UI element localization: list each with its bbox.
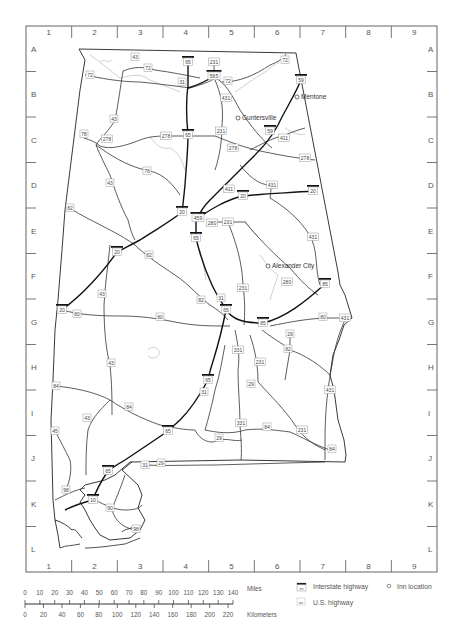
us-highway-shield: 431 (267, 181, 278, 189)
svg-text:29: 29 (248, 381, 254, 387)
grid-row-label: B (31, 90, 36, 99)
us-highway-shield: 80 (319, 313, 327, 321)
svg-text:20: 20 (59, 307, 65, 313)
svg-text:82: 82 (285, 346, 291, 352)
svg-text:84: 84 (329, 446, 335, 452)
svg-text:40: 40 (81, 589, 89, 596)
svg-text:nn: nn (300, 587, 304, 591)
grid-row-label: B (428, 90, 433, 99)
svg-text:20: 20 (310, 188, 316, 194)
svg-text:278: 278 (229, 145, 238, 151)
interstate-shield: 20 (176, 206, 188, 216)
us-highway-shield: 43 (110, 115, 118, 123)
grid-column-label: 2 (92, 562, 97, 571)
svg-text:0: 0 (23, 611, 27, 618)
grid-column-label: 4 (184, 562, 189, 571)
us-highway-shield: 280 (282, 278, 293, 286)
svg-text:43: 43 (111, 116, 117, 122)
svg-text:565: 565 (210, 73, 219, 79)
svg-text:43: 43 (99, 291, 105, 297)
us-highway-shield: 72 (144, 64, 152, 72)
svg-text:180: 180 (186, 611, 197, 618)
svg-text:331: 331 (237, 420, 246, 426)
us-shield-icon: nn (297, 598, 305, 605)
grid-column-label: 5 (229, 562, 234, 571)
grid-row-label: D (428, 181, 434, 190)
scale-bar: 0102030405060708090100110120130140 02040… (23, 585, 277, 618)
svg-text:29: 29 (158, 460, 164, 466)
svg-text:280: 280 (208, 220, 217, 226)
us-highway-shield: 78 (80, 130, 88, 138)
inn-location: Alexander City (266, 262, 315, 270)
svg-text:65: 65 (185, 59, 191, 65)
us-highway-shield: 29 (215, 434, 223, 442)
grid-row-label: E (428, 227, 433, 236)
svg-text:231: 231 (210, 59, 219, 65)
svg-text:110: 110 (183, 589, 194, 596)
svg-text:78: 78 (81, 131, 87, 137)
us-highway-shield: 31 (178, 78, 186, 86)
svg-text:59: 59 (267, 128, 273, 134)
us-highway-shield: 278 (161, 132, 172, 140)
svg-text:31: 31 (201, 389, 207, 395)
svg-text:231: 231 (298, 427, 307, 433)
svg-text:431: 431 (268, 182, 277, 188)
us-highway-shield: 72 (224, 77, 232, 85)
grid-row-label: C (31, 136, 37, 145)
us-highway-shield: 231 (297, 426, 308, 434)
us-highway-shield: 82 (284, 345, 292, 353)
grid-row-label: K (428, 500, 434, 509)
us-highway-shield: 411 (224, 185, 235, 193)
svg-text:43: 43 (132, 54, 138, 60)
us-highway-shield: 431 (308, 233, 319, 241)
grid-row-label: H (428, 363, 434, 372)
grid-column-label: 8 (366, 562, 371, 571)
svg-text:231: 231 (256, 359, 265, 365)
inn-location: Mentone (295, 93, 327, 100)
grid-column-label: 8 (366, 28, 371, 37)
svg-text:82: 82 (146, 252, 152, 258)
svg-text:29: 29 (287, 331, 293, 337)
us-highway-shield: 231 (223, 218, 234, 226)
svg-text:65: 65 (185, 132, 191, 138)
us-highway-shield: 84 (125, 403, 133, 411)
svg-text:100: 100 (112, 611, 123, 618)
us-highway-shield: 331 (236, 419, 247, 427)
us-highway-shield: 90 (106, 504, 114, 512)
us-highway-shield: 31 (217, 294, 225, 302)
us-highway-shield: 231 (216, 127, 227, 135)
svg-text:45: 45 (52, 428, 58, 434)
grid-column-label: 5 (229, 28, 234, 37)
us-highway-shield: 84 (52, 382, 60, 390)
us-highway-shield: 45 (51, 427, 59, 435)
us-highway-shield: 43 (107, 359, 115, 367)
grid-row-label: I (31, 409, 33, 418)
svg-text:72: 72 (282, 57, 288, 63)
us-highway-shield: 29 (286, 330, 294, 338)
svg-text:72: 72 (225, 78, 231, 84)
interstate-shield-icon: nn (297, 583, 306, 591)
legend: nn Interstate highway nn U.S. highway In… (297, 583, 432, 607)
svg-text:80: 80 (95, 611, 103, 618)
grid-column-label: 1 (47, 28, 52, 37)
svg-text:220: 220 (223, 611, 234, 618)
svg-text:65: 65 (193, 235, 199, 241)
town-label: Mentone (301, 93, 327, 100)
svg-text:20: 20 (114, 249, 120, 255)
svg-text:65: 65 (105, 468, 111, 474)
svg-text:59: 59 (298, 77, 304, 83)
svg-text:84: 84 (264, 424, 270, 430)
svg-text:231: 231 (217, 128, 226, 134)
us-highway-shield: 80 (156, 313, 164, 321)
grid-row-label: L (31, 545, 36, 554)
us-highway-shield: 231 (209, 58, 220, 66)
interstate-shield: 459 (191, 212, 206, 222)
svg-text:278: 278 (103, 136, 112, 142)
grid-column-label: 4 (184, 28, 189, 37)
svg-text:278: 278 (162, 133, 171, 139)
interstate-shield: 85 (319, 278, 331, 288)
svg-text:85: 85 (260, 320, 266, 326)
grid-row-label: H (31, 363, 37, 372)
svg-text:65: 65 (205, 377, 211, 383)
interstate-shield: 65 (102, 465, 114, 475)
